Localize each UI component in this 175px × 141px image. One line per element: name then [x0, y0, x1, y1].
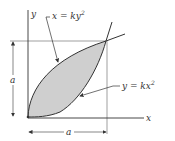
- equation-upper-label: x = ky2: [52, 9, 85, 21]
- origin-point: [27, 116, 30, 119]
- leader-x-equals-ky2: [46, 17, 58, 62]
- shaded-region: [28, 41, 106, 117]
- equation-lower-label: y = kx2: [121, 79, 155, 91]
- dimension-label-vertical: a: [10, 75, 15, 85]
- x-axis-label: x: [146, 113, 151, 123]
- y-axis-label: y: [30, 9, 37, 19]
- leader-y-equals-kx2: [80, 86, 120, 96]
- area-between-curves-diagram: y x x = ky2 y = kx2 a a: [0, 0, 175, 141]
- dimension-label-horizontal: a: [66, 127, 71, 137]
